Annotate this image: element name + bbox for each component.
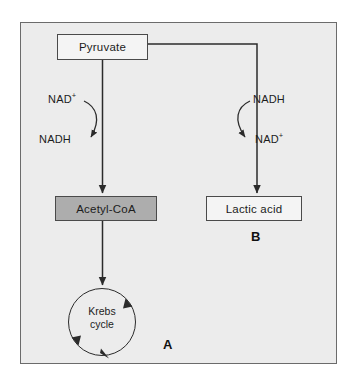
cofactor-nadh-left: NADH	[39, 133, 71, 145]
curve-nadh-to-nadplus	[238, 101, 250, 137]
node-pyruvate-label: Pyruvate	[79, 41, 126, 53]
panel-letter-b: B	[251, 229, 260, 244]
cofactor-nad-plus-right: NAD+	[255, 133, 283, 145]
node-acetyl-coa-label: Acetyl-CoA	[76, 203, 136, 215]
krebs-cycle-label-line2: cycle	[68, 318, 136, 331]
cofactor-nadh-right-base: NADH	[253, 93, 285, 105]
cofactor-nadh-left-base: NADH	[39, 133, 71, 145]
pathway-connector-layer	[0, 0, 357, 382]
curve-nadplus-to-nadh	[84, 101, 97, 137]
node-lactic-acid: Lactic acid	[206, 196, 302, 221]
cofactor-nad-plus-right-charge: +	[279, 131, 284, 140]
cofactor-nad-plus-left-base: NAD	[48, 93, 72, 105]
cofactor-nad-plus-left-charge: +	[72, 91, 77, 100]
node-pyruvate: Pyruvate	[57, 34, 148, 60]
krebs-cycle-label-line1: Krebs	[68, 305, 136, 318]
cofactor-nadh-right: NADH	[253, 93, 285, 105]
metabolic-pathway-figure: Pyruvate Acetyl-CoA Lactic acid NAD+ NAD…	[0, 0, 357, 382]
connector-pyruvate-to-lacticacid	[148, 44, 257, 193]
panel-letter-a: A	[163, 337, 172, 352]
node-lactic-acid-label: Lactic acid	[226, 203, 283, 215]
node-acetyl-coa: Acetyl-CoA	[55, 196, 157, 221]
cofactor-nad-plus-left: NAD+	[48, 93, 76, 105]
krebs-cycle-label: Krebs cycle	[68, 305, 136, 330]
cofactor-nad-plus-right-base: NAD	[255, 133, 279, 145]
